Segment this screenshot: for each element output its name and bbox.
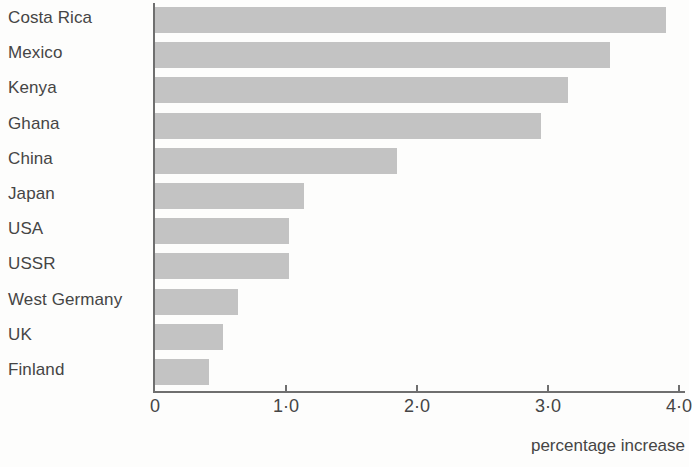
bar [155,183,304,209]
category-label: UK [8,325,150,345]
category-label: Kenya [8,78,150,98]
bar [155,289,238,315]
bar-fill [155,359,209,385]
category-label: Ghana [8,114,150,134]
x-axis-caption: percentage increase [531,436,685,456]
bar-fill [155,253,289,279]
x-axis-tick [285,385,287,392]
bar-fill [155,324,223,350]
x-axis-line [153,391,685,393]
bar [155,359,209,385]
category-label: USA [8,219,150,239]
bar-fill [155,7,666,33]
bar [155,148,397,174]
x-axis-tick [678,385,680,392]
bar-series [155,3,685,391]
x-axis-tick-label: 4·0 [666,395,692,417]
bar [155,42,610,68]
category-label: Finland [8,360,150,380]
bar [155,218,289,244]
bar-fill [155,42,610,68]
bar [155,7,666,33]
bar-fill [155,77,568,103]
category-label: Japan [8,184,150,204]
bar-fill [155,289,238,315]
category-axis-labels: Costa RicaMexicoKenyaGhanaChinaJapanUSAU… [0,0,150,392]
plot-area [155,3,685,391]
bar-fill [155,148,397,174]
category-label: Mexico [8,43,150,63]
bar [155,253,289,279]
category-label: USSR [8,254,150,274]
category-label: Costa Rica [8,8,150,28]
bar-fill [155,183,304,209]
bar [155,77,568,103]
x-axis-tick-label: 2·0 [404,395,430,417]
bar [155,324,223,350]
x-axis-tick-label: 0 [150,395,160,417]
x-axis-tick-label: 3·0 [535,395,561,417]
bar-fill [155,113,541,139]
category-label: China [8,149,150,169]
bar-fill [155,218,289,244]
category-label: West Germany [8,290,150,310]
x-axis-tick-label: 1·0 [273,395,299,417]
x-axis-tick [547,385,549,392]
bar [155,113,541,139]
x-axis-tick [416,385,418,392]
